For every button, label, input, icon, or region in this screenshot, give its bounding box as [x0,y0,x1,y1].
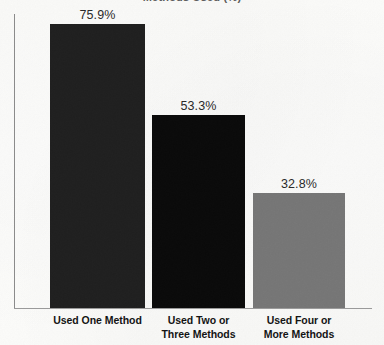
bar-texture [253,193,345,308]
bar-value-label-1: 75.9% [50,8,145,22]
y-axis-line [14,14,15,309]
bar-category-label-2: Used Two or Three Methods [145,314,252,341]
plot-area: 75.9% Used One Method 53.3% Used Two or … [0,0,384,345]
bar-used-four-or-more-methods [253,193,345,308]
bar-texture [50,24,145,308]
bar-value-label-3: 32.8% [253,177,345,191]
bar-used-one-method [50,24,145,308]
bar-category-label-1: Used One Method [42,314,153,328]
x-axis-line [14,308,372,309]
bar-texture [152,115,245,308]
bar-used-two-or-three-methods [152,115,245,308]
chart-page: Methods Used (%) 75.9% Used One Method 5… [0,0,384,345]
bar-category-label-3: Used Four or More Methods [246,314,352,341]
bar-value-label-2: 53.3% [152,99,245,113]
